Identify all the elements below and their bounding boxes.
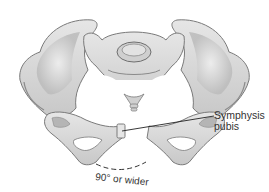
pelvis-diagram (0, 0, 269, 192)
symphysis-pubis-label: Symphysis pubis (214, 110, 265, 132)
subpubic-angle-arc (96, 162, 146, 170)
symphysis-label-line2: pubis (214, 121, 265, 132)
